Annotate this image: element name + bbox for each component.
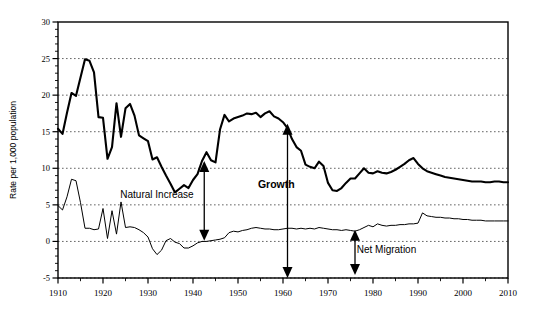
x-tick-label: 1970 xyxy=(319,288,338,298)
annotation-label-net-migration: Net Migration xyxy=(357,244,416,255)
x-tick-label: 1920 xyxy=(94,288,113,298)
y-tick-label: -5 xyxy=(43,273,50,283)
y-tick-label: 0 xyxy=(46,236,50,246)
y-tick-label: 15 xyxy=(42,127,51,137)
y-tick-label: 5 xyxy=(46,200,50,210)
x-tick-label: 1940 xyxy=(184,288,203,298)
y-axis-title-group: Rate per 1,000 population xyxy=(8,101,18,199)
y-tick-label: 30 xyxy=(42,17,51,27)
y-tick-label: 10 xyxy=(42,163,51,173)
y-tick-label: 20 xyxy=(42,90,51,100)
x-tick-label: 1960 xyxy=(274,288,293,298)
y-tick-label: 25 xyxy=(42,54,51,64)
chart-container: -505101520253019101920193019401950196019… xyxy=(0,0,542,315)
annotation-label-growth: Growth xyxy=(258,178,295,190)
chart-background xyxy=(0,0,542,315)
x-tick-label: 2000 xyxy=(454,288,473,298)
x-tick-label: 1950 xyxy=(229,288,248,298)
y-axis-title: Rate per 1,000 population xyxy=(8,101,18,199)
x-tick-label: 2010 xyxy=(499,288,518,298)
x-tick-label: 1930 xyxy=(139,288,158,298)
population-rate-line-chart: -505101520253019101920193019401950196019… xyxy=(0,0,542,315)
x-tick-label: 1990 xyxy=(409,288,428,298)
x-tick-label: 1910 xyxy=(49,288,68,298)
x-tick-label: 1980 xyxy=(364,288,383,298)
annotation-label-natural-increase: Natural Increase xyxy=(120,189,194,200)
